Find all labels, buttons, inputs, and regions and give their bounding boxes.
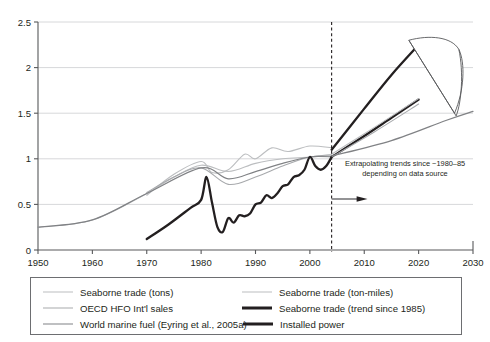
x-tick-label: 1950	[27, 257, 48, 268]
legend-label: Installed power	[280, 319, 345, 330]
annotation-line-1: Extrapolating trends since ~1980–85	[345, 159, 465, 168]
plot-area: 00.511.522.51950196019701980199020002010…	[0, 0, 490, 268]
x-tick-label: 1990	[245, 257, 266, 268]
legend-label: OECD HFO Int'l sales	[80, 303, 173, 314]
legend-swatch-seaborne-trade-tons	[43, 287, 73, 297]
series-line	[332, 104, 419, 157]
series-line	[332, 99, 419, 155]
x-tick-label: 2030	[462, 257, 483, 268]
y-tick-label: 1	[26, 153, 31, 164]
legend-swatch-installed-power	[243, 319, 273, 329]
legend-swatch-seaborne-trade-trend	[242, 303, 272, 313]
y-tick-label: 2	[26, 62, 31, 73]
legend-row: OECD HFO Int'l sales Seaborne trade (tre…	[31, 300, 461, 316]
series-line	[332, 45, 419, 150]
legend-item-installed-power: Installed power	[243, 316, 461, 332]
x-tick-label: 1960	[82, 257, 103, 268]
legend-item-oecd-hfo-intl-sales: OECD HFO Int'l sales	[31, 300, 242, 316]
x-tick-label: 2000	[299, 257, 320, 268]
x-tick-label: 1980	[191, 257, 212, 268]
legend-label: Seaborne trade (trend since 1985)	[279, 303, 425, 314]
y-tick-label: 1.5	[18, 108, 31, 119]
series-line	[332, 100, 419, 157]
series-line	[38, 154, 332, 227]
series-line	[38, 156, 332, 227]
legend-swatch-world-marine-fuel	[43, 319, 73, 329]
y-tick-label: 0	[26, 245, 31, 256]
legend-item-seaborne-trade-ton-miles: Seaborne trade (ton-miles)	[242, 284, 461, 300]
legend-label: Seaborne trade (ton-miles)	[279, 287, 393, 298]
legend-item-world-marine-fuel: World marine fuel (Eyring et al., 2005a)	[31, 316, 243, 332]
chart-figure: 00.511.522.51950196019701980199020002010…	[0, 0, 490, 342]
x-tick-label: 2010	[354, 257, 375, 268]
extrapolation-arrow-head	[357, 196, 368, 202]
legend-row: Seaborne trade (tons) Seaborne trade (to…	[31, 284, 461, 300]
x-tick-label: 2020	[408, 257, 429, 268]
annotation-line-2: depending on data source	[362, 169, 447, 178]
legend-row: World marine fuel (Eyring et al., 2005a)…	[31, 316, 461, 332]
x-tick-label: 1970	[136, 257, 157, 268]
legend-item-seaborne-trade-tons: Seaborne trade (tons)	[31, 284, 242, 300]
legend-swatch-seaborne-trade-ton-miles	[242, 287, 272, 297]
chart-legend: Seaborne trade (tons) Seaborne trade (to…	[30, 277, 462, 335]
legend-item-seaborne-trade-trend-since-1985: Seaborne trade (trend since 1985)	[242, 300, 461, 316]
legend-label: World marine fuel (Eyring et al., 2005a)	[80, 319, 247, 330]
y-tick-label: 2.5	[18, 17, 31, 28]
legend-label: Seaborne trade (tons)	[80, 287, 173, 298]
y-tick-label: 0.5	[18, 199, 31, 210]
chart-canvas: 00.511.522.51950196019701980199020002010…	[0, 0, 490, 268]
legend-swatch-oecd-hfo-intl-sales	[43, 303, 73, 313]
series-line	[332, 111, 473, 156]
